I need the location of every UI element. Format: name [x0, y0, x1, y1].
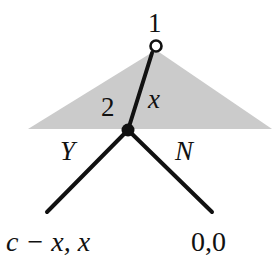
game-tree-figure: 1 2 x Y N c − x, x 0,0 — [0, 0, 278, 271]
payoff-left: c − x, x — [6, 228, 90, 256]
payoff-right: 0,0 — [191, 228, 226, 256]
node-label-player-2: 2 — [101, 94, 115, 121]
edge-reject-N — [128, 130, 212, 212]
edge-label-reject-N: N — [175, 138, 193, 165]
node-decision-filled-circle — [122, 124, 135, 137]
edge-label-offer-x: x — [148, 86, 160, 113]
node-label-player-1: 1 — [148, 10, 162, 37]
node-root-open-circle — [151, 41, 162, 52]
edge-label-accept-Y: Y — [60, 138, 75, 165]
